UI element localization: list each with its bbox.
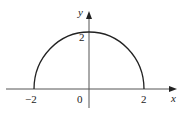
semicircle-graph: y 2 −2 0 2 x — [0, 0, 186, 116]
y-axis-label: y — [77, 6, 83, 18]
origin-label: 0 — [77, 93, 83, 105]
x-tick-neg2: −2 — [25, 93, 37, 105]
x-tick-2: 2 — [141, 93, 147, 105]
y-tick-2: 2 — [79, 31, 85, 43]
x-axis-label: x — [170, 92, 176, 104]
y-axis-arrow-icon — [86, 11, 92, 19]
